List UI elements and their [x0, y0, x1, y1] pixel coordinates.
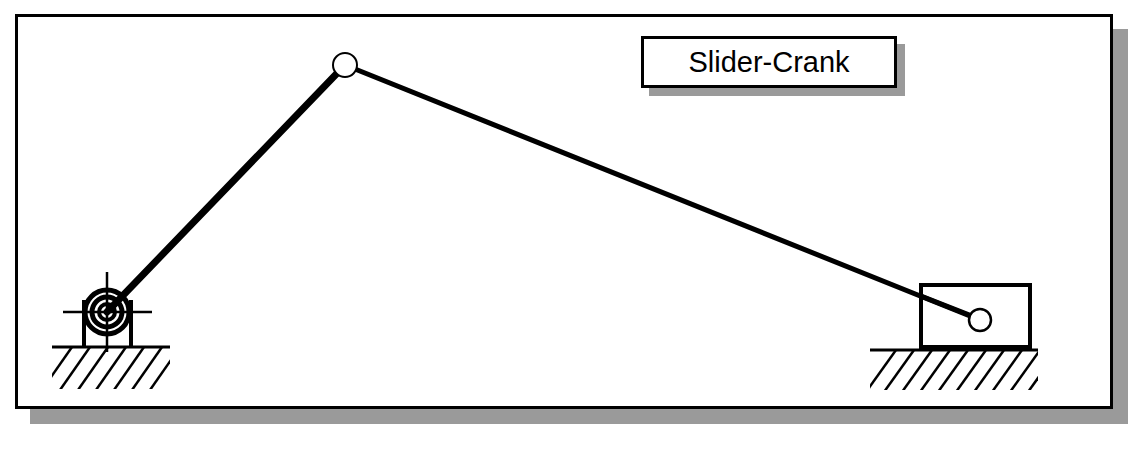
- crank-pin-joint: [333, 53, 357, 77]
- mechanism-diagram-canvas: [0, 0, 1128, 453]
- slider-crank-figure: Slider-Crank: [0, 0, 1128, 453]
- slider-pin-joint: [969, 309, 991, 331]
- title-box: Slider-Crank: [641, 36, 897, 88]
- figure-title: Slider-Crank: [688, 46, 849, 79]
